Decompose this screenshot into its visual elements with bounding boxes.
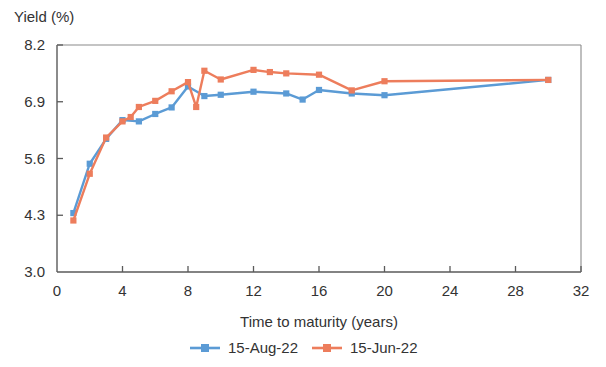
- x-tick-label: 12: [245, 282, 262, 299]
- y-axis-title: Yield (%): [14, 8, 74, 25]
- series-line: [73, 70, 548, 221]
- x-tick-label: 8: [184, 282, 192, 299]
- chart-legend: 15-Aug-2215-Jun-22: [190, 339, 418, 356]
- y-tick-label: 5.6: [24, 150, 45, 167]
- data-point-marker: [169, 104, 175, 110]
- x-tick-label: 16: [311, 282, 328, 299]
- data-point-marker: [103, 134, 109, 140]
- plot-axes: [57, 45, 581, 272]
- data-point-marker: [381, 78, 387, 84]
- chart-svg: Yield (%) 3.04.35.66.98.2 04812162024283…: [0, 0, 606, 367]
- data-point-marker: [128, 114, 134, 120]
- x-tick-label: 0: [53, 282, 61, 299]
- data-point-marker: [381, 92, 387, 98]
- yield-curve-chart: Yield (%) 3.04.35.66.98.2 04812162024283…: [0, 0, 606, 367]
- x-tick-label: 20: [376, 282, 393, 299]
- y-tick-label: 8.2: [24, 36, 45, 53]
- data-point-marker: [267, 69, 273, 75]
- x-axis-title: Time to maturity (years): [240, 313, 398, 330]
- data-point-marker: [136, 118, 142, 124]
- data-point-marker: [119, 118, 125, 124]
- data-point-marker: [316, 87, 322, 93]
- data-point-marker: [169, 88, 175, 94]
- chart-series: [70, 67, 551, 224]
- series-layer: [70, 67, 551, 224]
- x-tick-label: 4: [118, 282, 126, 299]
- x-tick-label: 32: [573, 282, 590, 299]
- legend-swatch-marker: [201, 344, 209, 352]
- data-point-marker: [152, 111, 158, 117]
- x-tick-label: 28: [507, 282, 524, 299]
- data-point-marker: [300, 96, 306, 102]
- series-line: [73, 80, 548, 213]
- data-point-marker: [152, 98, 158, 104]
- data-point-marker: [283, 70, 289, 76]
- data-point-marker: [201, 93, 207, 99]
- legend-swatch-marker: [323, 344, 331, 352]
- data-point-marker: [218, 92, 224, 98]
- data-point-marker: [316, 72, 322, 78]
- legend-label: 15-Aug-22: [228, 339, 298, 356]
- data-point-marker: [250, 89, 256, 95]
- chart-series: [70, 77, 551, 216]
- data-point-marker: [201, 68, 207, 74]
- data-point-marker: [87, 161, 93, 167]
- x-tick-label: 24: [442, 282, 459, 299]
- y-tick-label: 3.0: [24, 263, 45, 280]
- data-point-marker: [218, 76, 224, 82]
- data-point-marker: [136, 104, 142, 110]
- data-point-marker: [87, 171, 93, 177]
- y-tick-label: 6.9: [24, 93, 45, 110]
- legend-label: 15-Jun-22: [350, 339, 418, 356]
- data-point-marker: [545, 77, 551, 83]
- x-axis-ticks: 048121620242832: [53, 266, 590, 299]
- data-point-marker: [283, 90, 289, 96]
- y-tick-label: 4.3: [24, 206, 45, 223]
- data-point-marker: [193, 104, 199, 110]
- data-point-marker: [250, 67, 256, 73]
- data-point-marker: [349, 87, 355, 93]
- data-point-marker: [185, 79, 191, 85]
- data-point-marker: [70, 217, 76, 223]
